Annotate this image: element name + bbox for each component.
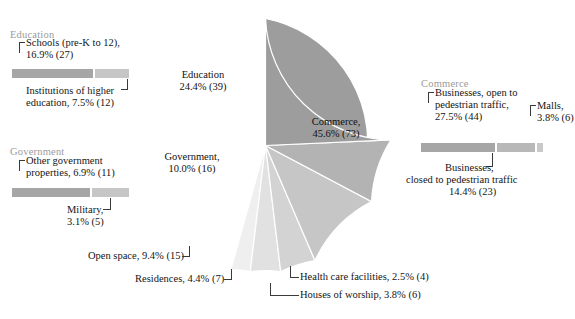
callout-health-care-leader-horizontal	[290, 277, 299, 278]
education-breakdown-bar	[12, 69, 129, 78]
callout-residences-label: Residences, 4.4% (7)	[135, 273, 224, 286]
government-breakdown-bar	[12, 188, 129, 197]
callout-houses-leader-horizontal	[270, 295, 299, 296]
government-segment-other	[12, 188, 90, 197]
callout-open-space-label: Open space, 9.4% (15)	[88, 250, 184, 263]
open-biz-label-line2: pedestrian traffic,	[435, 99, 509, 112]
other-gov-leader-vertical	[19, 160, 20, 171]
other-gov-label-line2: properties, 6.9% (11)	[26, 167, 115, 180]
open-biz-leader-horizontal	[428, 92, 434, 93]
commerce-segment-open	[421, 143, 495, 152]
pie-label-education-line1: Education	[182, 69, 225, 80]
malls-leader-horizontal	[530, 105, 536, 106]
malls-leader-vertical	[530, 105, 531, 116]
higher-ed-label-line2: education, 7.5% (12)	[26, 97, 114, 110]
closed-biz-label-line1: Businesses,	[445, 162, 494, 175]
commerce-segment-malls	[537, 143, 543, 152]
higher-ed-label-line1: Institutions of higher	[26, 85, 114, 98]
military-label-line1: Military,	[67, 204, 103, 217]
callout-open-space-leader-vertical	[189, 246, 190, 257]
education-segment-higher-ed	[95, 69, 129, 78]
education-segment-schools	[12, 69, 93, 78]
open-biz-label-line3: 27.5% (44)	[435, 111, 482, 124]
pie-label-commerce-line1: Commerce,	[312, 116, 361, 127]
callout-houses-label: Houses of worship, 3.8% (6)	[300, 289, 421, 302]
pie-label-government-line2: 10.0% (16)	[168, 163, 216, 175]
pie-label-education-line2: 24.4% (39)	[179, 81, 227, 93]
schools-label-line1: Schools (pre-K to 12),	[26, 37, 120, 50]
other-gov-leader-horizontal	[19, 160, 25, 161]
schools-leader-vertical	[19, 42, 20, 53]
closed-biz-label-line3: 14.4% (23)	[449, 186, 496, 199]
pie-label-government-line1: Government,	[164, 151, 219, 162]
malls-label-line1: Malls,	[537, 100, 564, 113]
malls-label-line2: 3.8% (6)	[537, 112, 574, 125]
military-label-line2: 3.1% (5)	[67, 216, 104, 229]
closed-biz-label-line2: closed to pedestrian traffic	[406, 174, 517, 187]
commerce-breakdown-bar	[421, 143, 543, 152]
callout-health-care-label: Health care facilities, 2.5% (4)	[300, 271, 429, 284]
higher-ed-leader-horizontal	[121, 89, 128, 90]
other-gov-label-line1: Other government	[26, 155, 103, 168]
open-biz-label-line1: Businesses, open to	[435, 87, 518, 100]
pie-label-commerce-line2: 45.6% (73)	[312, 128, 360, 140]
government-segment-military	[92, 188, 129, 197]
open-biz-leader-vertical	[428, 92, 429, 103]
pie-svg: Education 24.4% (39) Commerce, 45.6% (73…	[137, 17, 394, 274]
schools-label-line2: 16.9% (27)	[26, 49, 73, 62]
chart-figure: Education 24.4% (39) Commerce, 45.6% (73…	[0, 0, 575, 319]
pie-chart: Education 24.4% (39) Commerce, 45.6% (73…	[137, 17, 394, 274]
commerce-segment-closed	[497, 143, 535, 152]
callout-residences-leader-vertical	[231, 269, 232, 280]
schools-leader-horizontal	[19, 42, 25, 43]
military-leader-horizontal	[103, 209, 111, 210]
